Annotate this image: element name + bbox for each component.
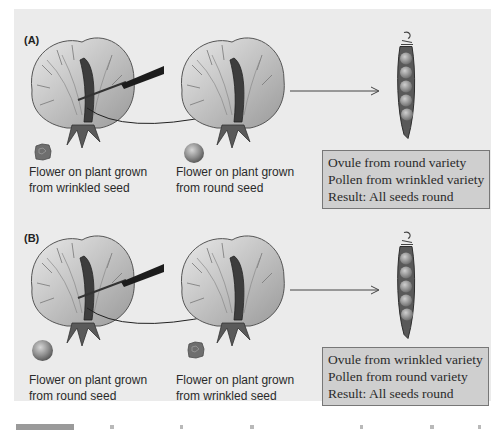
caption-line: Flower on plant grown	[176, 372, 294, 388]
caption-line: from round seed	[176, 180, 294, 196]
cropped-caption-fragment	[110, 425, 114, 429]
caption-line: from wrinkled seed	[29, 180, 147, 196]
caption-line: Flower on plant grown	[29, 372, 147, 388]
round-seed-icon	[183, 142, 205, 164]
pollen-line: Pollen from round variety	[328, 368, 483, 385]
cropped-caption-fragment	[250, 425, 254, 429]
ovule-line: Ovule from round variety	[328, 154, 484, 171]
flower-a-right-caption: Flower on plant grown from round seed	[176, 164, 294, 196]
brush-icon	[76, 62, 166, 102]
caption-line: Flower on plant grown	[29, 164, 147, 180]
result-line: Result: All seeds round	[328, 188, 484, 205]
wrinkled-seed-icon	[33, 142, 53, 162]
cropped-caption-fragment	[360, 425, 363, 429]
ovule-line: Ovule from wrinkled variety	[328, 351, 483, 368]
cropped-caption-fragment	[430, 425, 434, 429]
result-box-a: Ovule from round variety Pollen from wri…	[322, 150, 490, 209]
caption-line: from wrinkled seed	[176, 388, 294, 404]
result-box-b: Ovule from wrinkled variety Pollen from …	[322, 347, 489, 406]
result-line: Result: All seeds round	[328, 385, 483, 402]
pea-pod-a-illustration	[392, 28, 422, 143]
flower-b-right-illustration	[172, 228, 292, 348]
flower-b-right-caption: Flower on plant grown from wrinkled seed	[176, 372, 294, 404]
cropped-caption-fragment	[180, 425, 183, 429]
result-arrow-b	[288, 284, 382, 296]
caption-line: Flower on plant grown	[176, 164, 294, 180]
cropped-caption-fragment	[478, 425, 481, 429]
brush-icon	[76, 260, 166, 300]
flower-a-right-illustration	[172, 30, 292, 150]
result-arrow-a	[288, 85, 382, 97]
caption-line: from round seed	[29, 388, 147, 404]
pea-pod-b-illustration	[392, 228, 422, 343]
figure-number-tag	[16, 424, 74, 430]
round-seed-icon	[31, 339, 54, 362]
flower-a-left-caption: Flower on plant grown from wrinkled seed	[29, 164, 147, 196]
flower-b-left-caption: Flower on plant grown from round seed	[29, 372, 147, 404]
pollen-line: Pollen from wrinkled variety	[328, 171, 484, 188]
wrinkled-seed-icon	[186, 340, 206, 360]
